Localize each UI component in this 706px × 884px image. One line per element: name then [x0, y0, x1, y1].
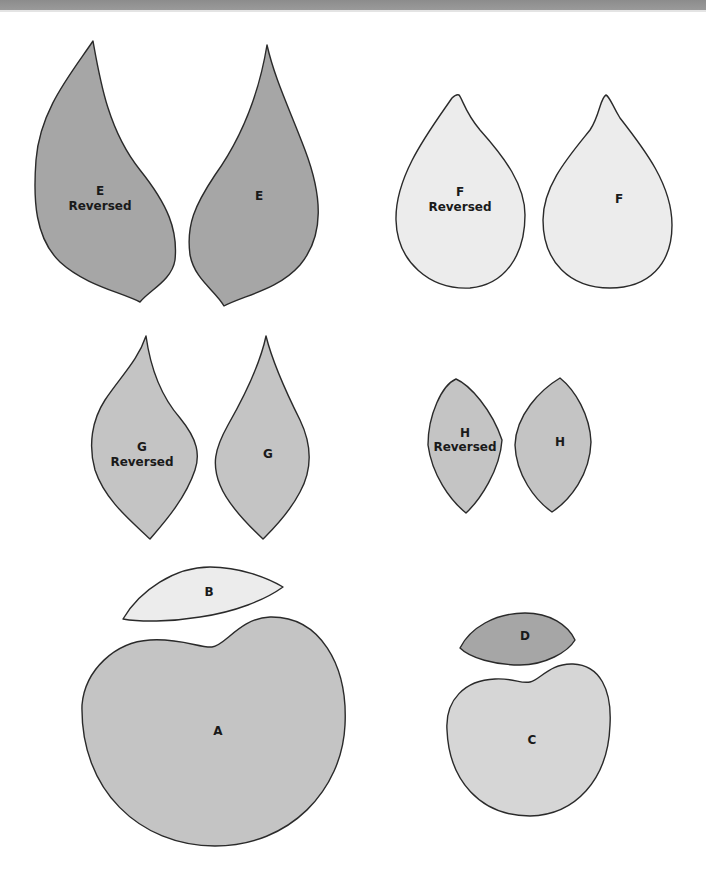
piece-g: G: [215, 336, 309, 539]
piece-b: B: [123, 567, 283, 621]
label-g-reversed-sub: Reversed: [110, 455, 173, 469]
petal-shape-d: [460, 613, 575, 665]
piece-e: E: [189, 45, 318, 306]
piece-d: D: [460, 613, 575, 665]
piece-e-reversed: E Reversed: [35, 41, 176, 302]
piece-a: A: [82, 617, 345, 846]
label-e-reversed-sub: Reversed: [68, 199, 131, 213]
piece-h: H: [515, 378, 591, 512]
label-h-reversed-sub: Reversed: [433, 440, 496, 454]
piece-g-reversed: G Reversed: [92, 336, 198, 539]
label-b-letter: B: [204, 585, 213, 599]
label-d-letter: D: [520, 629, 530, 643]
label-a-letter: A: [213, 724, 223, 738]
label-f-letter: F: [615, 192, 623, 206]
label-c-letter: C: [528, 733, 537, 747]
petal-shape-f: [543, 95, 672, 288]
label-f-reversed-letter: F: [456, 185, 464, 199]
label-h-letter: H: [555, 435, 565, 449]
petal-shape-e-reversed: [35, 41, 176, 302]
petal-shape-g-reversed: [92, 336, 198, 539]
template-canvas: E Reversed E F Reversed F G Reversed G H…: [0, 0, 706, 884]
label-g-letter: G: [263, 447, 273, 461]
piece-h-reversed: H Reversed: [428, 379, 502, 513]
petal-shape-h: [515, 378, 591, 512]
piece-c: C: [447, 664, 610, 816]
label-f-reversed-sub: Reversed: [428, 200, 491, 214]
label-g-reversed-letter: G: [137, 440, 147, 454]
petal-shape-b: [123, 567, 283, 621]
label-e-letter: E: [255, 189, 263, 203]
piece-f-reversed: F Reversed: [396, 95, 525, 288]
label-h-reversed-letter: H: [460, 426, 470, 440]
label-e-reversed-letter: E: [96, 184, 104, 198]
piece-f: F: [543, 95, 672, 288]
petal-shape-e: [189, 45, 318, 306]
petal-shape-g: [215, 336, 309, 539]
